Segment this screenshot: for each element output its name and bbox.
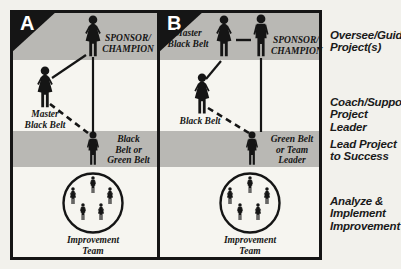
master-black-belt-label-a: Master Black Belt	[11, 109, 79, 130]
improvement-team-label-b: Improvement Team	[213, 235, 287, 256]
diagram-canvas: A B	[0, 0, 401, 269]
team-member-icon	[98, 203, 104, 220]
blackbelt-to-mbb-line-b	[206, 61, 221, 79]
team-member-icon	[264, 187, 270, 204]
black-or-green-belt-label-a: Black Belt or Green Belt	[100, 134, 157, 166]
team-member-icon	[70, 187, 76, 204]
mbb-to-sponsor-line-a	[52, 55, 86, 78]
master-black-belt-person-icon-a	[37, 67, 53, 108]
sponsor-champion-label-a: SPONSOR/ CHAMPION	[101, 33, 155, 54]
black-green-belt-person-icon-a	[87, 131, 99, 164]
oversee-guide-projects-label: Oversee/Guide Project(s)	[330, 29, 401, 54]
team-member-icon	[237, 203, 243, 220]
improvement-team-label-a: Improvement Team	[56, 235, 130, 256]
team-member-icon	[227, 187, 233, 204]
lead-project-to-success-label: Lead Project to Success	[330, 138, 401, 163]
master-black-belt-label-b: Master Black Belt	[163, 28, 213, 49]
coach-support-project-leader-label: Coach/Support Project Leader	[330, 96, 401, 133]
team-member-icon	[90, 176, 96, 193]
green-belt-or-team-leader-label-b: Green Belt or Team Leader	[263, 134, 321, 166]
analyze-implement-improvement-label: Analyze & Implement Improvement	[330, 195, 401, 232]
team-member-icon	[80, 203, 86, 220]
team-member-icon	[247, 176, 253, 193]
green-belt-person-icon-b	[246, 131, 258, 164]
black-belt-label-b: Black Belt	[168, 116, 232, 127]
sponsor-champion-label-b: SPONSOR/ CHAMPION	[271, 35, 321, 56]
team-member-icon	[107, 187, 113, 204]
black-belt-person-icon-b	[194, 74, 209, 114]
team-member-icon	[255, 203, 261, 220]
sponsor-champion-person-icon-a	[85, 16, 101, 57]
master-black-belt-person-icon-b	[216, 16, 232, 57]
sponsor-champion-person-icon-b	[253, 15, 268, 57]
